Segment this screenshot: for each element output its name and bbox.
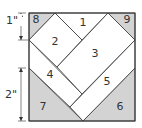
- piece-label-5: 5: [104, 75, 111, 88]
- piece-label-4: 4: [47, 68, 54, 81]
- arrow-down-icon: [19, 36, 23, 40]
- dimension-label-2in: 2": [5, 88, 17, 101]
- piece-label-3: 3: [92, 47, 99, 60]
- piece-label-8: 8: [33, 13, 40, 26]
- heart-block-diagram: 1 2 3 4 5 6 7 8 9 1" 2": [0, 0, 142, 128]
- piece-label-2: 2: [52, 35, 59, 48]
- dimension-label-1in: 1": [6, 14, 18, 27]
- dimension-1in: 1": [6, 13, 28, 40]
- dimension-2in: 2": [4, 68, 26, 121]
- piece-label-6: 6: [117, 100, 124, 113]
- arrow-down-icon: [19, 117, 23, 121]
- piece-label-1: 1: [80, 16, 87, 29]
- piece-label-9: 9: [124, 13, 131, 26]
- arrow-up-icon: [19, 68, 23, 72]
- piece-label-7: 7: [40, 100, 47, 113]
